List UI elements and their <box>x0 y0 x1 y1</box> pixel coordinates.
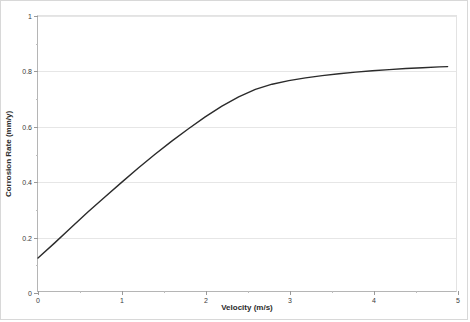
y-tick-label: 1 <box>28 13 32 20</box>
y-tick-label: 0.2 <box>22 234 32 241</box>
x-tick-label: 3 <box>288 297 292 304</box>
x-tick-label: 2 <box>204 297 208 304</box>
y-tick-label: 0.6 <box>22 123 32 130</box>
x-axis-title: Velocity (m/s) <box>37 304 457 312</box>
x-tick-mark <box>38 291 39 295</box>
x-tick-minor <box>80 291 81 293</box>
x-tick-mark <box>206 291 207 295</box>
y-axis-title-text: Corrosion Rate (mm/y) <box>5 110 13 196</box>
x-tick-label: 5 <box>456 297 460 304</box>
x-tick-minor <box>416 291 417 293</box>
x-tick-minor <box>248 291 249 293</box>
x-tick-minor <box>332 291 333 293</box>
y-tick-label: 0.4 <box>22 179 32 186</box>
x-tick-minor <box>164 291 165 293</box>
chart-figure: Corrosion Rate (mm/y) 00.20.40.60.81 012… <box>0 0 468 320</box>
x-tick-mark <box>122 291 123 295</box>
x-tick-mark <box>290 291 291 295</box>
y-tick-label: 0 <box>28 290 32 297</box>
x-tick-label: 1 <box>120 297 124 304</box>
x-tick-label: 0 <box>36 297 40 304</box>
plot-area: 00.20.40.60.81 012345 <box>37 15 457 292</box>
series-polyline <box>38 67 448 258</box>
x-tick-mark <box>374 291 375 295</box>
series-line-corrosion-rate <box>38 16 456 291</box>
x-tick-label: 4 <box>372 297 376 304</box>
y-axis-title: Corrosion Rate (mm/y) <box>3 15 15 292</box>
x-tick-mark <box>458 291 459 295</box>
y-tick-label: 0.8 <box>22 68 32 75</box>
